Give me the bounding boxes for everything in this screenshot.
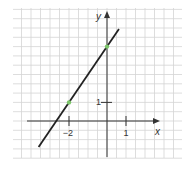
y-axis-arrow-icon [104,11,110,18]
x-tick-label-neg2: −2 [63,128,73,138]
point-marker [105,44,109,48]
x-tick-label-1: 1 [123,128,128,138]
y-axis-label: y [95,11,102,22]
x-axis-arrow-icon [153,118,160,124]
y-tick-label-1: 1 [96,97,101,107]
graph-figure: x y −2 1 1 [0,0,190,173]
point-marker [67,100,71,104]
coordinate-plane: x y −2 1 1 [0,0,190,173]
x-axis-label: x [154,126,161,137]
